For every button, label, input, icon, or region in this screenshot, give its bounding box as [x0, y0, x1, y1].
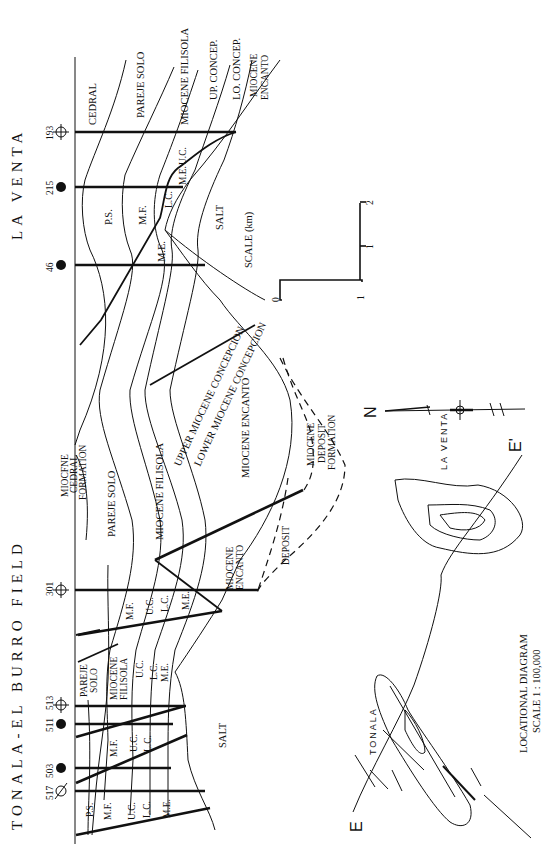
svg-text:LO. CONCEP.: LO. CONCEP. [231, 38, 242, 100]
title-la-venta: LA VENTA [9, 128, 25, 240]
svg-text:MIOCENE FILISOLA: MIOCENE FILISOLA [154, 442, 165, 540]
svg-text:M.F.: M.F. [137, 205, 148, 225]
svg-text:LA VENTA: LA VENTA [439, 412, 449, 470]
svg-text:MIOCENE FILISOLA: MIOCENE FILISOLA [179, 27, 190, 125]
svg-text:U.C.: U.C. [178, 147, 188, 165]
svg-text:U.C.: U.C. [135, 660, 145, 678]
svg-text:MIOCENE: MIOCENE [109, 657, 119, 700]
svg-text:1: 1 [356, 295, 366, 300]
svg-text:FILISOLA: FILISOLA [119, 658, 129, 700]
svg-text:193: 193 [45, 126, 55, 141]
well-513: 513 [45, 696, 69, 714]
well-511: 511 [45, 718, 66, 732]
horizons [75, 60, 252, 815]
svg-text:MIOCENE: MIOCENE [306, 423, 316, 466]
deposit-outline [257, 358, 345, 595]
svg-text:SOLO: SOLO [89, 668, 99, 693]
svg-text:P.S.: P.S. [103, 209, 114, 225]
svg-text:TONALA: TONALA [368, 707, 378, 755]
svg-text:MIOCENE: MIOCENE [249, 54, 259, 97]
well-193: 193 [45, 124, 69, 140]
title-tonala-el-burro: TONALA-EL BURRO FIELD [9, 539, 25, 830]
location-map: LA VENTA TONALA E E' LOCATIONAL DIAGRAM … [348, 412, 542, 838]
svg-text:503: 503 [45, 764, 55, 779]
svg-text:MIOCENE: MIOCENE [225, 547, 235, 590]
svg-text:PAREJE SOLO: PAREJE SOLO [106, 470, 117, 537]
well-46: 46 [45, 260, 66, 272]
well-215: 215 [45, 181, 66, 196]
svg-text:ENCANTO: ENCANTO [260, 55, 270, 100]
svg-text:L.C.: L.C. [160, 595, 170, 612]
svg-text:M.E.: M.E. [181, 591, 191, 610]
svg-text:517: 517 [45, 786, 55, 801]
svg-text:M.E.: M.E. [156, 241, 167, 262]
svg-text:DEPOSIT: DEPOSIT [281, 526, 291, 565]
svg-text:SALT: SALT [214, 204, 225, 230]
svg-text:46: 46 [45, 262, 55, 272]
svg-text:E: E [348, 821, 365, 832]
svg-text:SALT: SALT [217, 722, 228, 748]
svg-text:DEPOSIT: DEPOSIT [317, 424, 327, 463]
svg-text:L.C.: L.C. [149, 663, 159, 680]
svg-text:U.C.: U.C. [145, 597, 155, 615]
svg-text:M.F.: M.F. [125, 602, 135, 620]
tonala-horizons [88, 565, 109, 835]
svg-text:U.C.: U.C. [127, 802, 137, 820]
svg-text:SCALE 1 : 100,000: SCALE 1 : 100,000 [531, 650, 542, 733]
cross-section-diagram: LA VENTA TONALA-EL BURRO FIELD 193 215 4… [0, 0, 559, 844]
svg-text:N: N [362, 406, 379, 418]
svg-text:FORMATION: FORMATION [327, 414, 337, 470]
scale-bar: SCALE (km) 0 1 2 1 [243, 200, 375, 302]
svg-text:M.F.: M.F. [109, 739, 119, 757]
well-517: 517 [45, 783, 67, 800]
svg-text:PAREJE SOLO: PAREJE SOLO [135, 51, 146, 118]
svg-text:FORMATION: FORMATION [78, 444, 88, 500]
svg-text:ENCANTO: ENCANTO [235, 545, 245, 590]
svg-text:E': E' [507, 438, 524, 452]
svg-text:L.C.: L.C. [143, 735, 153, 752]
svg-text:UP. CONCEP.: UP. CONCEP. [208, 40, 219, 100]
svg-text:0: 0 [271, 297, 281, 302]
svg-text:215: 215 [45, 181, 55, 196]
svg-text:MIOCENE ENCANTO: MIOCENE ENCANTO [240, 377, 251, 478]
svg-text:513: 513 [45, 696, 55, 711]
svg-text:L.C.: L.C. [164, 191, 174, 208]
svg-text:LOCATIONAL DIAGRAM: LOCATIONAL DIAGRAM [518, 633, 529, 753]
svg-text:1: 1 [365, 244, 375, 249]
well-301: 301 [45, 582, 69, 599]
well-503: 503 [45, 763, 66, 778]
svg-text:PAREJE: PAREJE [79, 664, 89, 697]
svg-text:M.E.: M.E. [160, 663, 170, 682]
svg-text:CEDRAL: CEDRAL [87, 83, 98, 125]
svg-text:301: 301 [45, 582, 55, 597]
svg-text:U.C.: U.C. [129, 734, 139, 752]
svg-text:M.F.: M.F. [103, 802, 113, 820]
svg-text:2: 2 [365, 200, 375, 205]
svg-text:M.E.: M.E. [178, 166, 188, 185]
svg-text:M.E.: M.E. [162, 799, 172, 818]
svg-text:L.C.: L.C. [142, 801, 152, 818]
svg-text:SCALE (km): SCALE (km) [243, 211, 255, 268]
svg-text:511: 511 [45, 718, 55, 732]
